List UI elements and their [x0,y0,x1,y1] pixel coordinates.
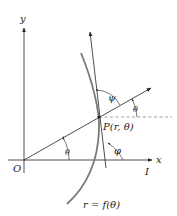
polar-diagram: y x O I P(r, θ) r = f(θ) θ θ ψ φ [0,0,177,216]
point-label: P(r, θ) [102,121,134,132]
theta-origin-label: θ [65,148,70,157]
polar-curve [67,53,99,204]
phi-label: φ [114,145,121,156]
polar-axis-label: I [144,166,150,177]
x-axis-label: x [156,154,162,165]
curve-label: r = f(θ) [83,199,120,210]
psi-label: ψ [108,92,116,103]
theta-point-label: θ [133,105,138,114]
point-p [98,116,101,119]
y-axis-label: y [19,13,26,24]
origin-label: O [13,163,21,174]
